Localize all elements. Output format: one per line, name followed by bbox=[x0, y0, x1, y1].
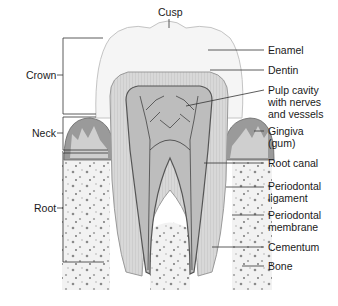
label-enamel: Enamel bbox=[268, 44, 304, 56]
label-periodontal-ligament-1: Periodontal bbox=[268, 180, 321, 192]
label-pulp-2: with nerves bbox=[268, 96, 321, 108]
label-dentin: Dentin bbox=[268, 64, 298, 76]
label-root: Root bbox=[34, 202, 56, 214]
tooth-diagram: Cusp Crown Neck Root Enamel Dentin Pulp … bbox=[0, 0, 338, 306]
label-pulp-1: Pulp cavity bbox=[268, 84, 319, 96]
label-periodontal-membrane-2: membrane bbox=[268, 221, 318, 233]
label-gingiva-1: Gingiva bbox=[268, 125, 304, 137]
label-neck: Neck bbox=[32, 127, 56, 139]
label-bone: Bone bbox=[268, 260, 293, 272]
label-gingiva-2: (gum) bbox=[268, 137, 295, 149]
label-pulp-3: and vessels bbox=[268, 108, 323, 120]
label-cementum: Cementum bbox=[268, 241, 319, 253]
label-root-canal: Root canal bbox=[268, 157, 318, 169]
label-crown: Crown bbox=[26, 69, 56, 81]
label-periodontal-ligament-2: ligament bbox=[268, 192, 308, 204]
label-periodontal-membrane-1: Periodontal bbox=[268, 209, 321, 221]
label-cusp: Cusp bbox=[158, 6, 183, 18]
